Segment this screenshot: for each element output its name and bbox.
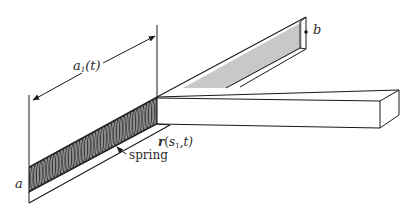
label-r-rest: ,t)	[180, 135, 193, 149]
label-a1t-rest: (t)	[85, 58, 100, 73]
label-a1t: a1(t)	[73, 59, 101, 74]
label-b: b	[313, 23, 321, 36]
horizontal-beam	[157, 90, 399, 128]
upper-bar	[157, 17, 308, 97]
point-b-dot	[304, 30, 308, 34]
beam-spring-diagram	[0, 0, 415, 220]
label-spring: spring	[129, 149, 168, 161]
label-a1t-main: a	[73, 58, 81, 73]
label-a: a	[15, 177, 23, 190]
